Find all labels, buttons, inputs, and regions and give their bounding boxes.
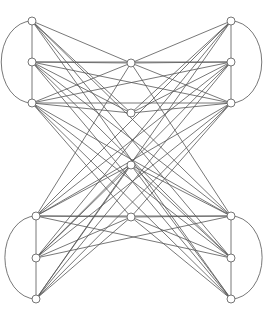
- node-C3: [127, 161, 135, 169]
- node-LT2: [28, 58, 36, 66]
- node-C4: [127, 213, 135, 221]
- edge-LB2-C4: [36, 217, 131, 258]
- node-RB3: [227, 295, 235, 303]
- edge-LB3-C4: [36, 217, 131, 299]
- node-LB2: [32, 254, 40, 262]
- arc-LB1-LB3: [5, 216, 36, 299]
- edge-RB2-C3: [131, 165, 231, 258]
- edge-RB2-C4: [131, 217, 231, 258]
- edge-C1-RB1: [131, 63, 231, 216]
- edge-RT2-LB2: [36, 62, 231, 258]
- node-C2: [127, 109, 135, 117]
- node-RT2: [227, 58, 235, 66]
- node-C1: [127, 59, 135, 67]
- node-LB1: [32, 212, 40, 220]
- edge-RB3-C3: [131, 165, 231, 299]
- edge-RT1-LB1: [36, 21, 231, 216]
- node-LB3: [32, 295, 40, 303]
- arc-LT1-LT3: [1, 21, 32, 103]
- arc-RB1-RB3: [231, 216, 262, 299]
- edge-RT2-C2: [131, 62, 231, 113]
- node-RT1: [227, 17, 235, 25]
- edge-LB1-C3: [36, 165, 131, 216]
- arc-RT1-RT3: [231, 21, 262, 103]
- edge-LT1-C2: [32, 21, 131, 113]
- node-RB1: [227, 212, 235, 220]
- edge-RT3-C1: [131, 63, 231, 103]
- node-RB2: [227, 254, 235, 262]
- graph-diagram: [0, 0, 266, 321]
- node-RT3: [227, 99, 235, 107]
- node-LT1: [28, 17, 36, 25]
- edge-C4-RT3: [131, 103, 231, 217]
- edge-RT1-C2: [131, 21, 231, 113]
- node-LT3: [28, 99, 36, 107]
- edge-LT1-RB1: [32, 21, 231, 216]
